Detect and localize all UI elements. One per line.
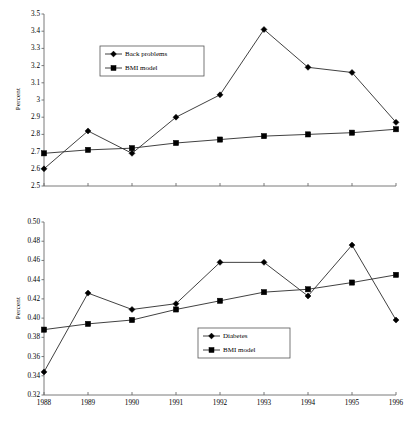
x-tick-label: 1992 [205,399,235,407]
y-tick-label: 0.48 [18,237,40,245]
y-tick-label: 0.34 [18,372,40,380]
y-tick-label: 0.46 [18,256,40,264]
y-tick-label: 2.6 [18,165,40,173]
x-tick-label: 1991 [161,399,191,407]
plot-area-top [0,0,416,210]
y-tick-label: 3 [18,96,40,104]
y-tick-label: 2.7 [18,148,40,156]
chart-panel-back-problems: Percent 2.52.62.72.82.933.13.23.33.43.5B… [0,0,416,210]
x-tick-label: 1989 [73,399,103,407]
x-tick-label: 1990 [117,399,147,407]
y-tick-label: 2.9 [18,113,40,121]
x-tick-label: 1995 [337,399,367,407]
y-tick-label: 3.1 [18,79,40,87]
y-tick-label: 3.3 [18,44,40,52]
y-tick-label: 0.44 [18,276,40,284]
legend-entry-label: Back problems [125,50,167,58]
y-tick-label: 0.38 [18,333,40,341]
legend-entry-label: BMI model [223,346,255,354]
y-tick-label: 3.4 [18,27,40,35]
chart-panel-diabetes: Percent 0.320.340.360.380.400.420.440.46… [0,210,416,435]
y-tick-label: 0.42 [18,295,40,303]
y-tick-label: 2.8 [18,130,40,138]
y-tick-label: 0.32 [18,391,40,399]
y-tick-label: 3.5 [18,10,40,18]
legend-entry-label: BMI model [125,64,157,72]
y-tick-label: 0.50 [18,218,40,226]
x-tick-label: 1994 [293,399,323,407]
y-tick-label: 0.40 [18,314,40,322]
legend-entry-label: Diabetes [223,332,248,340]
figure-two-panel-line-charts: Percent 2.52.62.72.82.933.13.23.33.43.5B… [0,0,416,435]
x-tick-label: 1993 [249,399,279,407]
y-tick-label: 0.36 [18,353,40,361]
x-tick-label: 1996 [381,399,411,407]
x-tick-label: 1988 [29,399,59,407]
y-tick-label: 3.2 [18,62,40,70]
y-tick-label: 2.5 [18,182,40,190]
